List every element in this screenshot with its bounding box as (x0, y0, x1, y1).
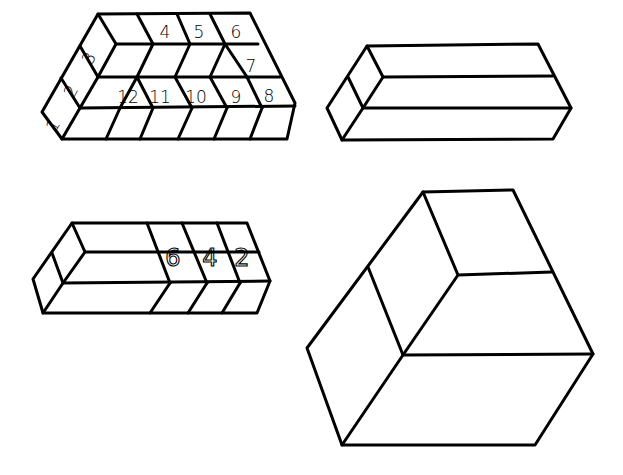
figure-1-row2-div-c (210, 44, 225, 77)
cube-label-5: 5 (194, 22, 205, 42)
figure-1-row1-div-c (210, 14, 225, 44)
figure-3-front-div-a (150, 283, 170, 313)
figure-1-front-div-a (106, 108, 120, 139)
figure-3-front-div-b (188, 283, 207, 313)
figure-4-large-block (307, 190, 593, 445)
cube-label-6: 6 (165, 244, 180, 272)
cube-label-10: 10 (185, 87, 207, 107)
figure-1-row3-div-c (210, 77, 227, 108)
figure-4-middle-line (403, 354, 593, 355)
cube-label-2: 2 (234, 244, 249, 272)
figure-2-end-divider (348, 77, 363, 108)
figure-1-row3-div-d (247, 77, 262, 108)
figure-3-front-div-c (222, 283, 240, 313)
figure-2-end-edge (342, 46, 383, 140)
cube-label-3: 3 (77, 48, 100, 67)
cube-label-1: 1 (41, 115, 64, 134)
figure-4-top-divider (458, 272, 552, 275)
figure-2-middle-line (383, 76, 553, 77)
cube-label-6: 6 (231, 22, 242, 42)
figure-1-row2-div-b (175, 44, 190, 77)
figure-2-long-block (327, 44, 571, 140)
cube-label-12: 12 (117, 87, 139, 107)
cube-label-4: 4 (202, 244, 217, 272)
figure-4-left-divider (368, 267, 403, 355)
puzzle-diagram: 123456789101112 642 (0, 0, 623, 475)
figure-4-outline (307, 190, 593, 445)
figure-3-numbered-long-block: 642 (33, 223, 270, 313)
cube-label-11: 11 (149, 87, 171, 107)
cube-label-2: 2 (59, 81, 82, 100)
cube-label-9: 9 (231, 87, 242, 107)
figure-1-row1-div-a (137, 14, 153, 44)
figure-4-inner-edge (342, 192, 458, 445)
figure-1-front-div-c (178, 108, 192, 139)
figure-1-row2-div-a (137, 44, 153, 77)
figure-1-row1-div-b (177, 14, 190, 44)
figure-3-labels: 642 (165, 244, 249, 272)
cube-label-7: 7 (246, 56, 257, 76)
cube-label-4: 4 (160, 22, 171, 42)
figure-1-front-div-b (140, 108, 153, 139)
cube-label-8: 8 (264, 86, 275, 106)
figure-1-row2-div-d (225, 44, 247, 77)
figure-1-numbered-block: 123456789101112 (41, 13, 295, 139)
figure-3-end-divider (52, 253, 63, 283)
figure-1-front-div-e (250, 108, 262, 139)
figure-2-outline (327, 44, 571, 140)
figure-1-front-div-d (214, 108, 227, 139)
